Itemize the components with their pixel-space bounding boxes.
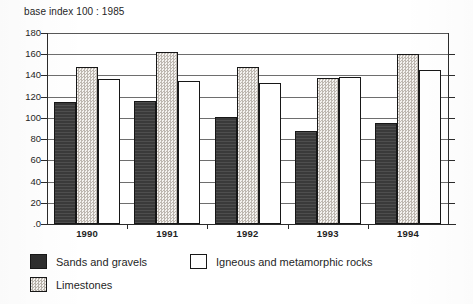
x-axis-label-1992: 1992 (207, 228, 287, 244)
x-axis-line (47, 224, 456, 225)
x-axis-labels: 19901991199219931994 (47, 228, 448, 244)
chart-title: base index 100 : 1985 (24, 6, 125, 17)
bar-chart: base index 100 : 1985 180160140120100806… (0, 0, 473, 304)
y-axis-tick-label: .0 (11, 218, 41, 229)
bar-sands-and-gravels-1991 (134, 101, 156, 224)
bar-sands-and-gravels-1990 (54, 102, 76, 224)
legend-label-igneous: Igneous and metamorphic rocks (216, 256, 373, 268)
y-axis-tick-label: 160 (11, 48, 41, 59)
bar-group-1991 (127, 33, 207, 224)
x-axis-label-1991: 1991 (127, 228, 207, 244)
y-axis-tick-label: 180 (11, 27, 41, 38)
x-axis-label-1990: 1990 (47, 228, 127, 244)
y-axis-tick-label: 100 (11, 112, 41, 123)
legend-swatch-limestones-icon (30, 277, 47, 292)
bar-group-1994 (368, 33, 448, 224)
legend-label-limestones: Limestones (56, 279, 112, 291)
bar-limestones-1991 (156, 52, 178, 224)
right-axis-tick-mark (448, 97, 455, 98)
y-axis-tick-label: 40 (11, 176, 41, 187)
legend-swatch-igneous-icon (190, 254, 207, 269)
right-axis-tick-mark (448, 54, 455, 55)
chart-legend: Sands and gravels Igneous and metamorphi… (30, 250, 450, 296)
legend-item-igneous-and-metamorphic-rocks: Igneous and metamorphic rocks (190, 254, 373, 269)
bar-sands-and-gravels-1994 (375, 123, 397, 224)
right-axis-tick-mark (448, 75, 455, 76)
bar-limestones-1992 (237, 67, 259, 224)
legend-item-sands-and-gravels: Sands and gravels (30, 254, 190, 269)
bar-limestones-1993 (317, 78, 339, 224)
bar-group-1990 (47, 33, 127, 224)
bar-limestones-1990 (76, 67, 98, 224)
bar-limestones-1994 (397, 54, 419, 224)
legend-item-limestones: Limestones (30, 277, 190, 292)
bar-sands-and-gravels-1992 (215, 117, 237, 224)
right-axis-tick-mark (448, 182, 455, 183)
bar-group-1993 (288, 33, 368, 224)
y-axis-tick-label: 80 (11, 133, 41, 144)
legend-label-sands: Sands and gravels (56, 256, 147, 268)
bar-groups (47, 33, 448, 224)
right-axis-tick-mark (448, 139, 455, 140)
legend-swatch-sands-icon (30, 254, 47, 269)
right-axis-line (448, 33, 449, 225)
bar-igneous-and-metamorphic-rocks-1992 (259, 83, 281, 224)
right-axis-tick-mark (448, 118, 455, 119)
y-axis-tick-label: 120 (11, 91, 41, 102)
bar-igneous-and-metamorphic-rocks-1990 (98, 79, 120, 224)
y-axis: 18016014012010080604020.0 (0, 33, 41, 225)
y-axis-tick-label: 20 (11, 197, 41, 208)
bar-igneous-and-metamorphic-rocks-1994 (419, 70, 441, 224)
bar-sands-and-gravels-1993 (295, 131, 317, 224)
y-axis-tick-label: 60 (11, 154, 41, 165)
bar-igneous-and-metamorphic-rocks-1993 (339, 77, 361, 224)
x-axis-label-1993: 1993 (288, 228, 368, 244)
bar-igneous-and-metamorphic-rocks-1991 (178, 81, 200, 224)
x-axis-label-1994: 1994 (368, 228, 448, 244)
bar-group-1992 (207, 33, 287, 224)
y-axis-tick-label: 140 (11, 69, 41, 80)
right-axis-tick-mark (448, 160, 455, 161)
right-axis-tick-mark (448, 203, 455, 204)
